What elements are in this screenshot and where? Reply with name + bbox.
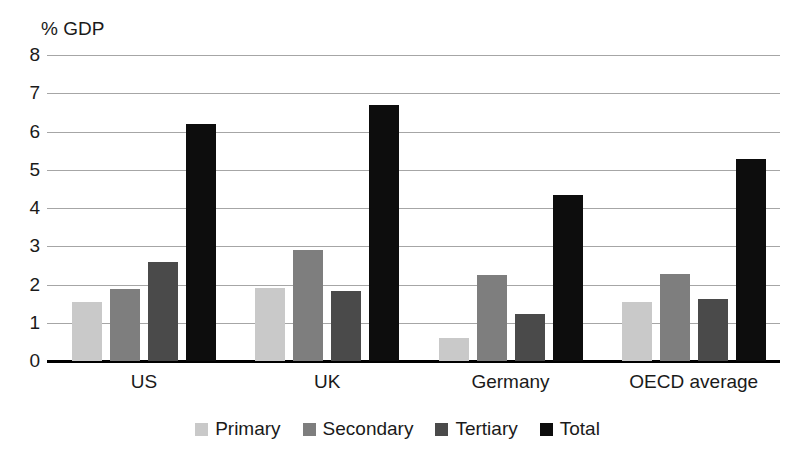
bar-tertiary-1 <box>331 291 361 361</box>
category-label-0: US <box>131 371 157 393</box>
category-label-3: OECD average <box>629 371 758 393</box>
bar-total-3 <box>736 159 766 361</box>
bar-primary-1 <box>255 288 285 361</box>
y-tick-4: 4 <box>10 198 40 217</box>
legend-label-secondary: Secondary <box>323 419 414 439</box>
y-tick-1: 1 <box>10 313 40 332</box>
bar-primary-3 <box>622 302 652 361</box>
y-tick-8: 8 <box>10 45 40 64</box>
y-tick-6: 6 <box>10 122 40 141</box>
bar-total-0 <box>186 124 216 361</box>
legend-swatch-total-icon <box>540 423 553 436</box>
legend-label-primary: Primary <box>215 419 280 439</box>
legend-swatch-tertiary-icon <box>435 423 448 436</box>
legend-item-tertiary: Tertiary <box>435 419 517 439</box>
category-label-2: Germany <box>471 371 549 393</box>
bar-tertiary-0 <box>148 262 178 361</box>
y-tick-0: 0 <box>10 351 40 370</box>
chart-legend: Primary Secondary Tertiary Total <box>0 419 795 439</box>
legend-item-primary: Primary <box>195 419 280 439</box>
bar-secondary-3 <box>660 274 690 361</box>
legend-item-total: Total <box>540 419 600 439</box>
y-tick-2: 2 <box>10 275 40 294</box>
legend-swatch-secondary-icon <box>303 423 316 436</box>
bar-secondary-2 <box>477 275 507 361</box>
bar-tertiary-3 <box>698 299 728 361</box>
bar-chart: % GDP 012345678 USUKGermanyOECD average … <box>0 0 795 470</box>
bar-primary-0 <box>72 302 102 361</box>
bar-primary-2 <box>439 338 469 361</box>
y-axis-tick-labels: 012345678 <box>0 0 40 470</box>
legend-swatch-primary-icon <box>195 423 208 436</box>
y-tick-7: 7 <box>10 83 40 102</box>
y-tick-3: 3 <box>10 236 40 255</box>
bar-total-2 <box>553 195 583 361</box>
legend-label-total: Total <box>560 419 600 439</box>
bars-layer <box>47 55 780 361</box>
legend-label-tertiary: Tertiary <box>455 419 517 439</box>
bar-secondary-1 <box>293 250 323 361</box>
bar-secondary-0 <box>110 289 140 361</box>
category-label-1: UK <box>314 371 340 393</box>
y-axis-title: % GDP <box>41 18 104 40</box>
bar-total-1 <box>369 105 399 361</box>
legend-item-secondary: Secondary <box>303 419 414 439</box>
y-tick-5: 5 <box>10 160 40 179</box>
bar-tertiary-2 <box>515 314 545 361</box>
